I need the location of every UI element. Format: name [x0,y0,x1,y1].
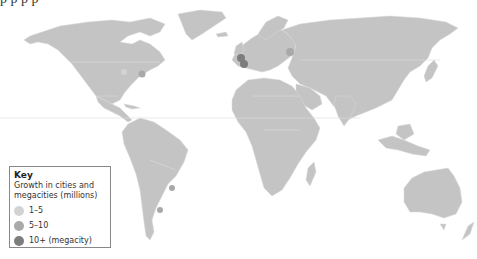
key-subtitle-line-1: Growth in cities and [14,181,106,191]
key-entry-1-5: 1–5 [14,205,106,216]
city-dot-moscow [286,48,294,56]
new-zealand [462,222,474,240]
tasmania [440,224,446,230]
city-dot-new-york [139,71,146,78]
south-america [122,118,188,240]
light-circle-icon [14,206,24,216]
north-america [24,18,165,104]
dark-circle-icon [14,236,24,246]
key-subtitle-line-2: megacities (millions) [14,191,106,201]
key-title: Key [14,170,106,181]
japan [424,60,438,82]
key-entry-megacity: 10+ (megacity) [14,235,106,246]
medium-circle-icon [14,221,24,231]
city-dot-chicago [121,69,127,75]
borneo [396,124,414,140]
australia [404,168,462,218]
city-dot-paris [240,60,248,68]
map-key: Key Growth in cities and megacities (mil… [9,166,111,248]
iceland [216,32,228,37]
city-dot-buenos-aires [157,207,163,213]
caribbean-islands [124,104,140,109]
city-dot-sao-paulo [169,185,175,191]
key-entry-5-10: 5–10 [14,220,106,231]
madagascar [306,162,316,186]
india [334,96,356,126]
